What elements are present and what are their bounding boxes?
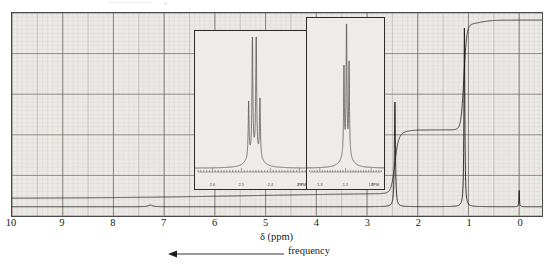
nmr-spectrum-figure: 2.62.52.42.3PPM 1.31.21.1PPM 10987654321…	[0, 0, 553, 268]
frequency-direction-row: frequency	[0, 246, 553, 262]
inset-tick-2.4: 2.4	[268, 183, 273, 188]
inset-b-trace	[307, 24, 384, 168]
inset-a-trace	[195, 37, 311, 168]
inset-tick-1.2: 1.2	[343, 183, 348, 188]
inset-unit-label: PPM	[371, 183, 379, 188]
x-tick-4: 4	[314, 217, 319, 229]
x-tick-8: 8	[110, 217, 115, 229]
inset-tick-2.5: 2.5	[239, 183, 244, 188]
x-tick-2: 2	[416, 217, 421, 229]
x-tick-10: 10	[6, 217, 17, 229]
inset-tick-1.3: 1.3	[317, 183, 322, 188]
x-axis-title: δ (ppm)	[0, 231, 553, 242]
inset-a-tick-labels: 2.62.52.42.3PPM	[195, 179, 311, 188]
inset-b-ruler	[310, 168, 382, 172]
x-tick-1: 1	[467, 217, 472, 229]
x-tick-0: 0	[517, 217, 522, 229]
inset-b-tick-labels: 1.31.21.1PPM	[307, 179, 384, 188]
inset-expansion-a: 2.62.52.42.3PPM	[194, 30, 312, 190]
inset-a-ruler	[198, 168, 308, 172]
x-tick-5: 5	[263, 217, 268, 229]
inset-unit-label: PPM	[298, 183, 306, 188]
x-tick-9: 9	[59, 217, 64, 229]
inset-tick-2.6: 2.6	[210, 183, 215, 188]
x-tick-3: 3	[365, 217, 370, 229]
inset-b-canvas	[307, 18, 384, 189]
inset-a-canvas	[195, 31, 311, 189]
x-tick-7: 7	[161, 217, 166, 229]
inset-expansion-b: 1.31.21.1PPM	[306, 17, 385, 190]
x-tick-6: 6	[212, 217, 217, 229]
page-scan-artifact	[108, 0, 178, 7]
frequency-arrow-icon	[168, 249, 284, 259]
frequency-label: frequency	[288, 245, 330, 256]
